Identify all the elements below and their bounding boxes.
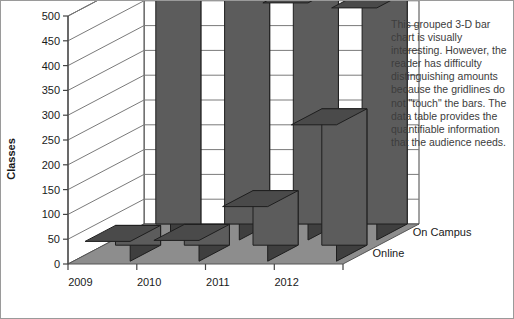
- svg-text:On Campus: On Campus: [413, 226, 472, 238]
- svg-text:350: 350: [42, 84, 60, 96]
- caption-text: This grouped 3-D bar chart is visually i…: [391, 18, 507, 149]
- svg-text:Classes: Classes: [5, 138, 17, 180]
- svg-text:2010: 2010: [137, 276, 161, 288]
- svg-text:200: 200: [42, 159, 60, 171]
- svg-text:50: 50: [48, 233, 60, 245]
- figure-container: 050100150200250300350400450500Classes200…: [0, 0, 514, 319]
- svg-text:500: 500: [42, 10, 60, 22]
- svg-text:150: 150: [42, 184, 60, 196]
- svg-text:100: 100: [42, 208, 60, 220]
- left-wall: [68, 1, 144, 264]
- svg-text:300: 300: [42, 109, 60, 121]
- svg-text:0: 0: [54, 258, 60, 270]
- svg-text:400: 400: [42, 60, 60, 72]
- svg-text:2012: 2012: [274, 276, 298, 288]
- svg-text:Online: Online: [373, 247, 405, 259]
- svg-text:450: 450: [42, 35, 60, 47]
- svg-text:250: 250: [42, 134, 60, 146]
- svg-text:2009: 2009: [68, 276, 92, 288]
- svg-text:2011: 2011: [206, 276, 230, 288]
